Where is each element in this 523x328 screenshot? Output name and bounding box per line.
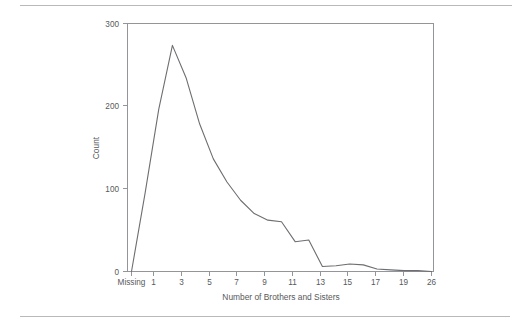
x-tick-label: 9 xyxy=(262,278,267,287)
line-chart-svg: 0 100 200 300 Missing 1 3 5 7 9 11 13 15… xyxy=(0,0,523,328)
x-tick-label: 11 xyxy=(288,278,297,287)
plot-area: 0 100 200 300 Missing 1 3 5 7 9 11 13 15… xyxy=(0,0,523,328)
y-tick-label: 200 xyxy=(105,102,119,111)
x-tick-label: 1 xyxy=(151,278,156,287)
x-tick-label: 19 xyxy=(399,278,409,287)
x-tick-label: 15 xyxy=(343,278,353,287)
y-tick-label: 0 xyxy=(114,268,119,277)
x-tick-label: 17 xyxy=(371,278,381,287)
x-tick-label: 3 xyxy=(179,278,184,287)
y-axis-ticks xyxy=(123,24,127,272)
y-axis-title: Count xyxy=(91,136,101,159)
y-tick-label: 100 xyxy=(105,185,119,194)
x-tick-label: Missing xyxy=(118,278,146,287)
x-axis-title: Number of Brothers and Sisters xyxy=(222,292,339,302)
data-series-line xyxy=(132,45,432,271)
y-tick-label: 300 xyxy=(105,20,119,29)
x-tick-labels: Missing 1 3 5 7 9 11 13 15 17 19 26 xyxy=(118,278,437,287)
plot-frame xyxy=(127,23,434,272)
y-tick-labels: 0 100 200 300 xyxy=(105,20,119,277)
x-tick-label: 26 xyxy=(427,278,437,287)
x-tick-label: 13 xyxy=(316,278,326,287)
figure-container: 0 100 200 300 Missing 1 3 5 7 9 11 13 15… xyxy=(0,0,523,328)
x-tick-label: 7 xyxy=(234,278,239,287)
x-axis-ticks xyxy=(132,272,432,276)
x-tick-label: 5 xyxy=(207,278,212,287)
